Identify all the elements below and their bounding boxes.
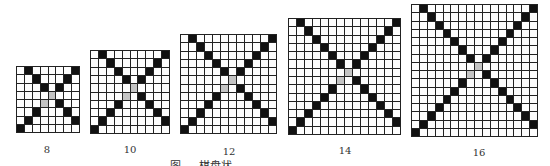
grid-cell-white: [522, 129, 529, 136]
grid-cell-white: [329, 110, 336, 117]
grid-cell-white: [412, 5, 419, 12]
grid-cell-white: [181, 93, 188, 100]
grid-cell-white: [189, 43, 196, 50]
grid-size-label: 10: [124, 144, 137, 155]
grid-cell-white: [499, 13, 506, 20]
grid-cell-white: [385, 127, 392, 134]
grid-cell-white: [261, 85, 268, 92]
grid-cell-white: [393, 52, 400, 59]
grid-cell-white: [123, 117, 130, 124]
grid-cell-white: [123, 126, 130, 133]
grid-cell-white: [229, 52, 236, 59]
grid-cell-black: [91, 126, 98, 133]
grid-cell-white: [385, 94, 392, 101]
grid-cell-black: [313, 102, 320, 109]
grid-cell-white: [229, 126, 236, 133]
grid-cell-white: [451, 71, 458, 78]
grid-cell-gray: [221, 85, 228, 92]
grid-cell-white: [499, 55, 506, 62]
grid-cell-white: [181, 60, 188, 67]
grid-cell-white: [377, 85, 384, 92]
grid-cell-white: [329, 36, 336, 43]
grid-cell-black: [313, 36, 320, 43]
grid-cell-white: [289, 102, 296, 109]
grid-cell-white: [197, 118, 204, 125]
grid-cell-white: [321, 85, 328, 92]
grid-cell-white: [189, 52, 196, 59]
grid-cell-white: [329, 118, 336, 125]
grid-cell-white: [221, 35, 228, 42]
grid-cell-white: [237, 93, 244, 100]
grid-cell-white: [162, 93, 169, 100]
grid-cell-white: [221, 109, 228, 116]
grid-cell-white: [361, 94, 368, 101]
grid-cell-white: [329, 77, 336, 84]
grid-cell-white: [420, 112, 427, 119]
grid-cell-white: [361, 36, 368, 43]
grid-cell-white: [213, 85, 220, 92]
grid-cell-white: [269, 52, 276, 59]
grid-cell-white: [305, 102, 312, 109]
grid-cell-white: [483, 63, 490, 70]
grid-cell-white: [499, 46, 506, 53]
grid-cell-white: [436, 30, 443, 37]
grid-cell-white: [197, 93, 204, 100]
grid-cell-white: [444, 46, 451, 53]
grid-cell-white: [107, 76, 114, 83]
grid-cell-white: [189, 68, 196, 75]
grid-cell-white: [33, 117, 40, 124]
grid-cell-white: [305, 127, 312, 134]
grid-cell-black: [369, 44, 376, 51]
grid-cell-white: [138, 117, 145, 124]
grid-cell-black: [297, 19, 304, 26]
grid-cell-white: [530, 63, 537, 70]
grid-cell-white: [253, 76, 260, 83]
grid-cell-white: [64, 67, 71, 74]
grid-cell-white: [385, 69, 392, 76]
grid-cell-white: [436, 112, 443, 119]
grid-cell-white: [305, 69, 312, 76]
grid-cell-white: [467, 22, 474, 29]
grid-cell-black: [444, 96, 451, 103]
grid-cell-white: [41, 125, 48, 132]
grid-cell-black: [25, 67, 32, 74]
grid-cell-white: [197, 60, 204, 67]
grid-cell-white: [49, 125, 56, 132]
grid-cell-white: [41, 75, 48, 82]
grid-cell-white: [385, 52, 392, 59]
grid-cell-white: [115, 93, 122, 100]
grid-cell-white: [514, 71, 521, 78]
grid-cell-white: [530, 71, 537, 78]
grid-cell-white: [385, 44, 392, 51]
grid-cell-white: [420, 22, 427, 29]
grid-cell-white: [369, 60, 376, 67]
grid-cell-black: [123, 76, 130, 83]
grid-cell-white: [321, 102, 328, 109]
grid-cell-white: [181, 85, 188, 92]
grid-cell-black: [17, 125, 24, 132]
grid-cell-white: [507, 112, 514, 119]
grid-cell-white: [146, 84, 153, 91]
grid-size-label: 12: [223, 146, 236, 157]
grid-cell-white: [353, 27, 360, 34]
grid-cell-white: [123, 68, 130, 75]
grid-cell-white: [514, 5, 521, 12]
grid-cell-white: [507, 88, 514, 95]
grid-cell-gray: [337, 77, 344, 84]
grid-cell-white: [345, 110, 352, 117]
grid-cell-gray: [49, 92, 56, 99]
grid-cell-white: [321, 52, 328, 59]
grid-cell-black: [253, 101, 260, 108]
grid-cell-white: [138, 84, 145, 91]
grid-cell-black: [436, 104, 443, 111]
grid-cell-white: [491, 13, 498, 20]
grid-cell-white: [337, 69, 344, 76]
grid-cell-white: [459, 38, 466, 45]
grid-cell-white: [313, 94, 320, 101]
grid-cell-white: [369, 36, 376, 43]
grid-cell-white: [475, 112, 482, 119]
grid-cell-black: [138, 76, 145, 83]
grid-cell-white: [313, 77, 320, 84]
grid-cell-white: [428, 55, 435, 62]
grid-cell-white: [451, 13, 458, 20]
